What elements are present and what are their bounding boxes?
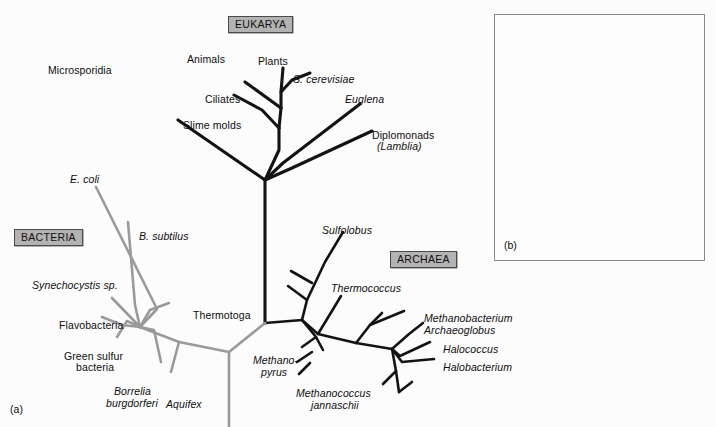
archaea-branch-0 [265, 320, 302, 323]
bacteria-branch-0 [229, 323, 265, 352]
taxon-label-archaea-4: Halococcus [443, 344, 498, 356]
taxon-label-archaea-8: Methanococcus [296, 388, 371, 400]
bacteria-branch-10 [96, 187, 157, 327]
archaea-branch-11 [370, 311, 404, 325]
panel-a-caption: (a) [10, 404, 23, 416]
archaea-branch-9 [318, 334, 392, 349]
taxon-label-bacteria-7: Borrelia [114, 386, 151, 398]
archaea-branch-8 [299, 363, 310, 374]
archaea-branch-2 [288, 286, 307, 300]
taxon-label-bacteria-3: Thermotoga [193, 310, 251, 322]
figure-root: EUKARYABACTERIAARCHAEA MicrosporidiaAnim… [0, 0, 716, 427]
archaea-branch-16 [383, 371, 396, 384]
taxon-label-bacteria-9: Aquifex [166, 399, 202, 411]
taxon-label-archaea-5: Halobacterium [443, 362, 512, 374]
archaea-branch-7 [297, 352, 312, 362]
domain-badge-bacteria: BACTERIA [14, 229, 83, 246]
archaea-branch-10 [356, 313, 382, 343]
archaea-branch-1 [302, 232, 343, 320]
bacteria-branch-3 [171, 342, 179, 372]
eukarya-branch-4 [279, 108, 281, 128]
taxon-label-bacteria-6: bacteria [76, 362, 114, 374]
archaea-branch-17 [399, 382, 412, 392]
taxon-label-bacteria-1: B. subtilus [139, 231, 189, 243]
archaea-branch-12 [392, 323, 423, 349]
domain-badge-archaea: ARCHAEA [390, 251, 457, 268]
taxon-label-archaea-3: Archaeoglobus [424, 325, 495, 337]
panel-b-caption: (b) [504, 239, 517, 251]
taxon-label-eukarya-8: (Lamblia) [377, 141, 422, 153]
taxon-label-eukarya-6: Slime molds [183, 120, 241, 132]
archaea-branch-3 [291, 271, 312, 283]
archaea-branch-6 [302, 337, 316, 347]
taxon-label-archaea-9: jannaschii [311, 400, 359, 412]
taxon-label-archaea-7: pyrus [261, 367, 287, 379]
taxon-label-bacteria-2: Synechocystis sp. [32, 280, 118, 292]
domain-badge-eukarya: EUKARYA [228, 16, 293, 33]
inset-panel-frame [494, 14, 705, 261]
taxon-label-bacteria-8: burgdorferi [106, 398, 158, 410]
taxon-label-archaea-0: Sulfolobus [322, 225, 372, 237]
taxon-label-bacteria-4: Flavobacteria [59, 320, 123, 332]
taxon-label-archaea-2: Methanobacterium [424, 313, 513, 325]
taxon-label-eukarya-4: Ciliates [205, 94, 240, 106]
taxon-label-eukarya-1: Animals [187, 54, 225, 66]
taxon-label-eukarya-5: Euglena [345, 94, 384, 106]
taxon-label-eukarya-2: Plants [258, 56, 288, 68]
taxon-label-bacteria-0: E. coli [70, 174, 99, 186]
taxon-label-archaea-1: Thermococcus [331, 283, 401, 295]
taxon-label-archaea-6: Methano- [253, 355, 298, 367]
eukarya-branch-9 [265, 131, 372, 180]
taxon-label-eukarya-3: S. cerevisiae [293, 74, 354, 86]
taxon-label-eukarya-0: Microsporidia [48, 65, 112, 77]
